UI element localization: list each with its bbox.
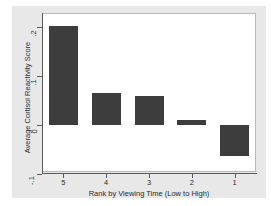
x-axis-tick-label: 5 — [53, 178, 73, 187]
x-axis-tick-label: 4 — [96, 178, 116, 187]
y-axis-tick-label: -.1 — [0, 169, 36, 179]
x-axis-tick-label: 3 — [139, 178, 159, 187]
bar — [92, 93, 121, 125]
bars-layer — [42, 13, 256, 173]
y-axis-tick-mark — [37, 174, 42, 175]
y-axis-tick-label-text: -.1 — [27, 176, 36, 185]
x-axis-title: Rank by Viewing Time (Low to High) — [42, 189, 256, 198]
chart-screenshot: .2.10-.1 54321 Rank by Viewing Time (Low… — [0, 0, 271, 206]
bar — [177, 120, 206, 125]
bar — [135, 96, 164, 125]
x-axis-tick-label: 2 — [182, 178, 202, 187]
bar — [220, 125, 249, 156]
y-axis-line — [42, 13, 43, 173]
bar — [49, 26, 78, 125]
x-axis-tick-label: 1 — [225, 178, 245, 187]
y-axis-title: Average Cortisol Reactivity Score — [23, 28, 32, 168]
